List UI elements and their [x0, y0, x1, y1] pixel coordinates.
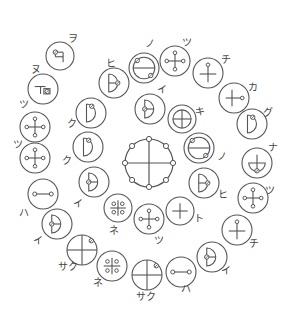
symbol-label: ツ — [19, 99, 29, 110]
symbol-label: イ — [157, 84, 167, 95]
four-dots-icon — [110, 200, 125, 215]
symbol-label: ツ — [13, 139, 23, 150]
symbol-ne2: ネ — [104, 194, 132, 236]
symbol-ku1: ク — [67, 98, 106, 129]
symbol-ki: キ — [168, 105, 205, 133]
symbol-hi2: ヒ — [189, 168, 228, 200]
symbol-saku2: サク — [132, 260, 162, 302]
symbol-label: ク — [67, 118, 77, 129]
symbol-label: ク — [62, 155, 72, 166]
symbol-label: チ — [249, 238, 259, 249]
symbol-label: ツ — [265, 185, 275, 196]
symbol-i4: イ — [135, 84, 167, 124]
symbol-nu: ヌ — [28, 64, 58, 104]
symbol-label: ノ — [217, 151, 227, 162]
symbol-saku1: サク — [58, 235, 97, 272]
symbol-ka: カ — [219, 82, 258, 113]
inscription-diagram: ヲヌツツハイサクネサクハイチツナグカチツノヒククイネツトヒノキイ — [0, 0, 296, 325]
symbol-na: ナ — [242, 142, 278, 178]
symbol-label: サク — [136, 291, 156, 302]
four-dots-icon — [104, 258, 121, 275]
symbol-ku2: ク — [62, 132, 103, 166]
symbol-i2: イ — [197, 242, 231, 276]
symbol-chi1: チ — [222, 215, 259, 249]
symbol-label: チ — [221, 54, 231, 65]
symbol-label: ヒ — [106, 58, 116, 69]
symbol-i1: イ — [33, 209, 72, 246]
symbol-tsu4: ツ — [160, 37, 192, 76]
symbol-label: ヌ — [31, 64, 41, 75]
symbol-label: サク — [58, 261, 78, 272]
symbol-label: ナ — [268, 142, 278, 153]
double-ring-cross-icon — [173, 110, 191, 128]
symbol-tsu2: ツ — [13, 139, 50, 173]
symbol-label: イ — [33, 235, 43, 246]
symbol-label: ト — [194, 213, 204, 224]
symbol-label: ヒ — [218, 189, 228, 200]
symbol-to: ト — [166, 197, 204, 225]
symbol-i3: イ — [73, 167, 109, 209]
symbol-label: イ — [221, 265, 231, 276]
symbol-label: カ — [248, 82, 258, 93]
symbol-label: キ — [195, 106, 205, 117]
symbol-ring: ヲヌツツハイサクネサクハイチツナグカチツノヒククイネツトヒノキイ — [13, 33, 278, 302]
symbol-label: ツ — [154, 235, 164, 246]
symbol-label: グ — [263, 106, 273, 118]
symbol-hi1: ヒ — [99, 58, 129, 98]
symbol-no2: ノ — [184, 133, 227, 163]
symbol-label: ヲ — [68, 33, 78, 44]
symbol-ne1: ネ — [93, 251, 127, 288]
symbol-ha2: ハ — [166, 257, 196, 294]
symbol-chi2: チ — [193, 54, 231, 88]
symbol-spiral-diagram: ヲヌツツハイサクネサクハイチツナグカチツノヒククイネツトヒノキイ — [0, 0, 296, 325]
symbol-label: ハ — [19, 207, 29, 218]
symbol-no1: ノ — [129, 38, 159, 83]
symbol-label: ネ — [109, 225, 119, 236]
symbol-label: ハ — [181, 283, 191, 294]
symbol-label: イ — [73, 198, 83, 209]
symbol-tsu1: ツ — [19, 99, 50, 142]
symbol-label: ノ — [145, 38, 155, 49]
symbol-tsu5: ツ — [134, 204, 164, 246]
symbol-label: ツ — [182, 37, 192, 48]
center-symbol — [122, 136, 175, 189]
symbol-label: ネ — [93, 277, 103, 288]
symbol-tsu3: ツ — [238, 183, 275, 213]
symbol-wo: ヲ — [46, 33, 78, 70]
